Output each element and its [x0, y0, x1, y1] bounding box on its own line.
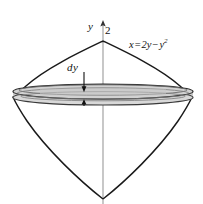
figure-canvas: y 2 dy x=2y−y2: [0, 0, 203, 204]
solid-of-revolution-graphic: [0, 0, 203, 204]
y-axis-label: y: [88, 21, 93, 32]
dy-label: dy: [67, 62, 78, 73]
solid-outline-left: [13, 41, 103, 199]
curve-equation-label: x=2y−y2: [129, 38, 168, 50]
disk-face-shading: [40, 89, 166, 96]
y-axis-tick-label-2: 2: [105, 25, 111, 36]
equation-term1: 2y: [142, 39, 152, 50]
equation-term2-exponent: 2: [164, 37, 168, 45]
equation-equals: =: [134, 39, 142, 50]
equation-lhs: x: [129, 39, 134, 50]
solid-outline-right: [103, 41, 192, 199]
